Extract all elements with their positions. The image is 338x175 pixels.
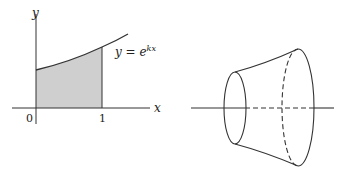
top-profile-line	[235, 49, 298, 72]
curve-label-exponent: kx	[147, 44, 157, 53]
solid-of-revolution-figure	[191, 49, 334, 166]
tick-label-one: 1	[99, 112, 106, 125]
curve-label-base: y = e	[114, 45, 147, 59]
bottom-profile-line	[235, 144, 298, 166]
diagram-canvas: y x 0 1 y = ekx	[0, 0, 338, 175]
curve-label: y = ekx	[114, 44, 156, 59]
tick-label-zero: 0	[26, 112, 33, 125]
shaded-region	[36, 47, 102, 108]
area-under-curve-figure: y x 0 1 y = ekx	[12, 6, 161, 125]
x-axis-label: x	[154, 101, 161, 115]
y-axis-label: y	[31, 6, 39, 20]
